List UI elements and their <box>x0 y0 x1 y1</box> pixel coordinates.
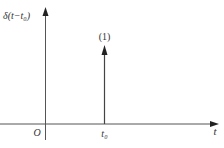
delta-function-figure: δ(t−t₀) (1) O t₀ t <box>0 0 224 148</box>
impulse-position-label: t₀ <box>101 128 108 139</box>
impulse-arrow-icon <box>102 45 108 55</box>
y-axis-label: δ(t−t₀) <box>3 10 31 22</box>
y-axis-arrow-icon <box>43 7 49 16</box>
origin-label: O <box>33 127 40 138</box>
delta-plot: δ(t−t₀) (1) O t₀ t <box>0 0 224 148</box>
x-axis-label: t <box>213 125 217 137</box>
impulse-strength-label: (1) <box>99 31 111 43</box>
